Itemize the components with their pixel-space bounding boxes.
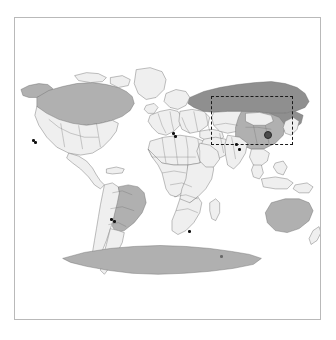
region-southeast-asia: [249, 149, 269, 167]
marker-south-america-brazil-2: [113, 220, 116, 223]
marker-africa-south: [188, 230, 191, 233]
region-new-guinea: [293, 183, 313, 193]
world-map: .land { stroke:#6e6e6e; stroke-width:0.4…: [15, 18, 320, 319]
region-mexico: [67, 153, 105, 189]
region-russia: [188, 82, 309, 114]
region-greenland: [134, 68, 166, 100]
map-frame: .land { stroke:#6e6e6e; stroke-width:0.4…: [14, 17, 321, 320]
marker-south-asia: [235, 143, 238, 146]
region-indonesia: [261, 177, 293, 189]
region-madagascar: [210, 199, 220, 221]
region-scandinavia: [164, 90, 190, 110]
region-southern-africa: [172, 197, 202, 235]
marker-southeast-asia: [238, 148, 241, 151]
marker-north-america-west-2: [34, 141, 37, 144]
region-canadian-arctic: [75, 73, 107, 83]
region-uk: [144, 103, 158, 113]
region-indochina: [251, 165, 263, 179]
region-caribbean: [106, 167, 124, 174]
region-new-zealand: [309, 227, 320, 245]
region-antarctica: [63, 245, 262, 274]
region-philippines: [273, 161, 287, 175]
region-australia: [265, 199, 313, 233]
marker-europe-italy-2: [174, 135, 177, 138]
marker-indian-ocean: [220, 255, 223, 258]
screenshot-root: .land { stroke:#6e6e6e; stroke-width:0.4…: [0, 0, 336, 340]
region-baffin: [110, 76, 130, 88]
